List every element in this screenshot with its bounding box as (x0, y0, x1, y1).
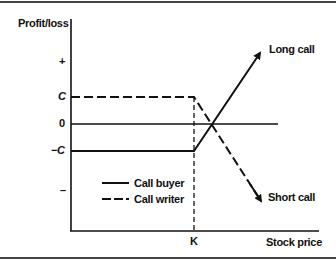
x-tick-k: K (190, 235, 198, 247)
long-call-label: Long call (269, 43, 315, 55)
x-axis-label: Stock price (266, 236, 322, 248)
short-call-label: Short call (268, 191, 315, 203)
payoff-diagram (0, 0, 336, 261)
call-buyer-line (71, 53, 260, 151)
y-tick-minus: – (60, 184, 66, 196)
y-tick-zero: 0 (59, 117, 65, 129)
legend-call-writer: Call writer (134, 193, 184, 205)
y-axis-label: Profit/loss (18, 17, 69, 29)
y-tick-neg-c: −C (51, 144, 65, 156)
y-tick-c: C (58, 90, 66, 102)
call-writer-arrow (250, 184, 261, 201)
y-tick-plus: + (59, 55, 65, 67)
legend-call-buyer: Call buyer (134, 177, 184, 189)
